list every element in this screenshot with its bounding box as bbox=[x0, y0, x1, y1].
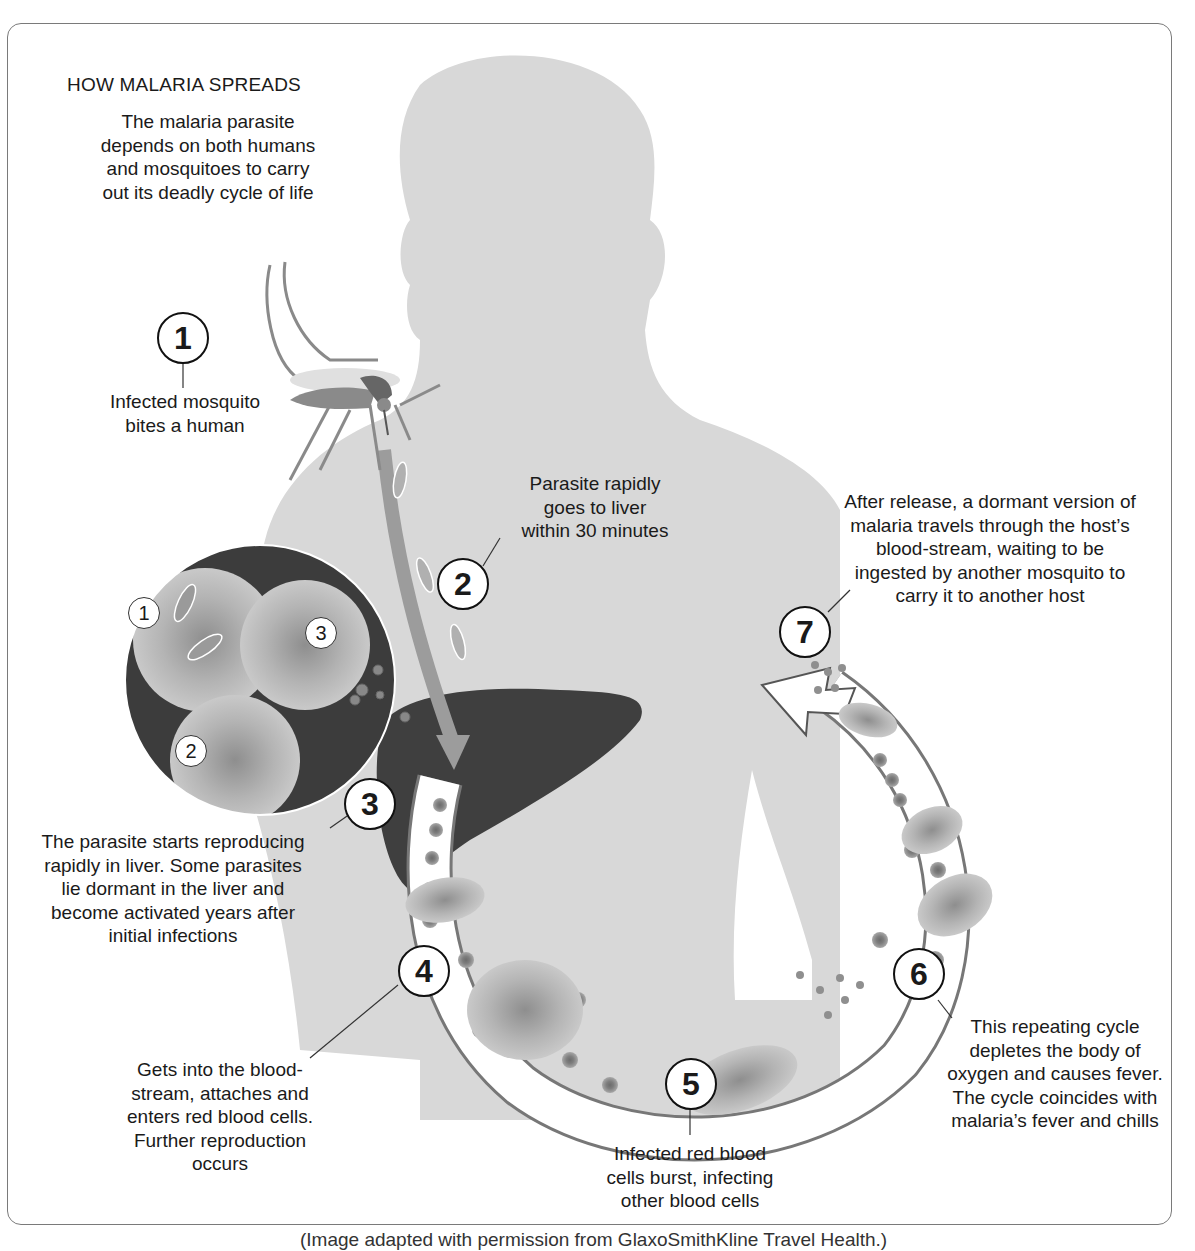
step-5-text: Infected red blood cells burst, infectin… bbox=[570, 1142, 810, 1213]
step-4-badge: 4 bbox=[398, 945, 450, 997]
step-1-text: Infected mosquito bites a human bbox=[70, 390, 300, 437]
step-text-line: carry it to another host bbox=[800, 584, 1180, 608]
step-text-line: This repeating cycle bbox=[925, 1015, 1185, 1039]
step-text-line: bites a human bbox=[70, 414, 300, 438]
step-7-text: After release, a dormant version of mala… bbox=[800, 490, 1180, 608]
step-text-line: malaria travels through the host’s bbox=[800, 514, 1180, 538]
step-text-line: Infected mosquito bbox=[70, 390, 300, 414]
step-text-line: Parasite rapidly bbox=[480, 472, 710, 496]
step-text-line: malaria’s fever and chills bbox=[925, 1109, 1185, 1133]
step-4-text: Gets into the blood- stream, attaches an… bbox=[95, 1058, 345, 1176]
step-text-line: stream, attaches and bbox=[95, 1082, 345, 1106]
step-text-line: within 30 minutes bbox=[480, 519, 710, 543]
inset-label-3: 3 bbox=[305, 617, 337, 649]
step-2-badge: 2 bbox=[437, 558, 489, 610]
subtitle-line: The malaria parasite bbox=[78, 110, 338, 134]
diagram-title: HOW MALARIA SPREADS bbox=[67, 74, 301, 96]
step-text-line: ingested by another mosquito to bbox=[800, 561, 1180, 585]
step-text-line: oxygen and causes fever. bbox=[925, 1062, 1185, 1086]
step-text-line: occurs bbox=[95, 1152, 345, 1176]
step-6-badge: 6 bbox=[893, 948, 945, 1000]
subtitle-line: and mosquitoes to carry bbox=[78, 157, 338, 181]
inset-label-1: 1 bbox=[128, 597, 160, 629]
step-5-badge: 5 bbox=[665, 1058, 717, 1110]
subtitle-line: depends on both humans bbox=[78, 134, 338, 158]
inset-label-2: 2 bbox=[175, 735, 207, 767]
step-text-line: cells burst, infecting bbox=[570, 1166, 810, 1190]
step-text-line: other blood cells bbox=[570, 1189, 810, 1213]
subtitle-line: out its deadly cycle of life bbox=[78, 181, 338, 205]
step-text-line: After release, a dormant version of bbox=[800, 490, 1180, 514]
step-text-line: The parasite starts reproducing bbox=[14, 830, 332, 854]
step-text-line: goes to liver bbox=[480, 496, 710, 520]
step-text-line: Gets into the blood- bbox=[95, 1058, 345, 1082]
step-text-line: depletes the body of bbox=[925, 1039, 1185, 1063]
step-6-text: This repeating cycle depletes the body o… bbox=[925, 1015, 1185, 1133]
step-text-line: rapidly in liver. Some parasites bbox=[14, 854, 332, 878]
step-text-line: become activated years after bbox=[14, 901, 332, 925]
step-3-text: The parasite starts reproducing rapidly … bbox=[14, 830, 332, 948]
step-text-line: The cycle coincides with bbox=[925, 1086, 1185, 1110]
step-2-text: Parasite rapidly goes to liver within 30… bbox=[480, 472, 710, 543]
step-3-badge: 3 bbox=[344, 778, 396, 830]
subtitle: The malaria parasite depends on both hum… bbox=[78, 110, 338, 204]
step-text-line: lie dormant in the liver and bbox=[14, 877, 332, 901]
step-text-line: blood-stream, waiting to be bbox=[800, 537, 1180, 561]
step-text-line: enters red blood cells. bbox=[95, 1105, 345, 1129]
step-1-badge: 1 bbox=[157, 312, 209, 364]
image-credit-caption: (Image adapted with permission from Glax… bbox=[300, 1229, 887, 1251]
step-text-line: initial infections bbox=[14, 924, 332, 948]
step-text-line: Further reproduction bbox=[95, 1129, 345, 1153]
step-text-line: Infected red blood bbox=[570, 1142, 810, 1166]
step-7-badge: 7 bbox=[779, 606, 831, 658]
